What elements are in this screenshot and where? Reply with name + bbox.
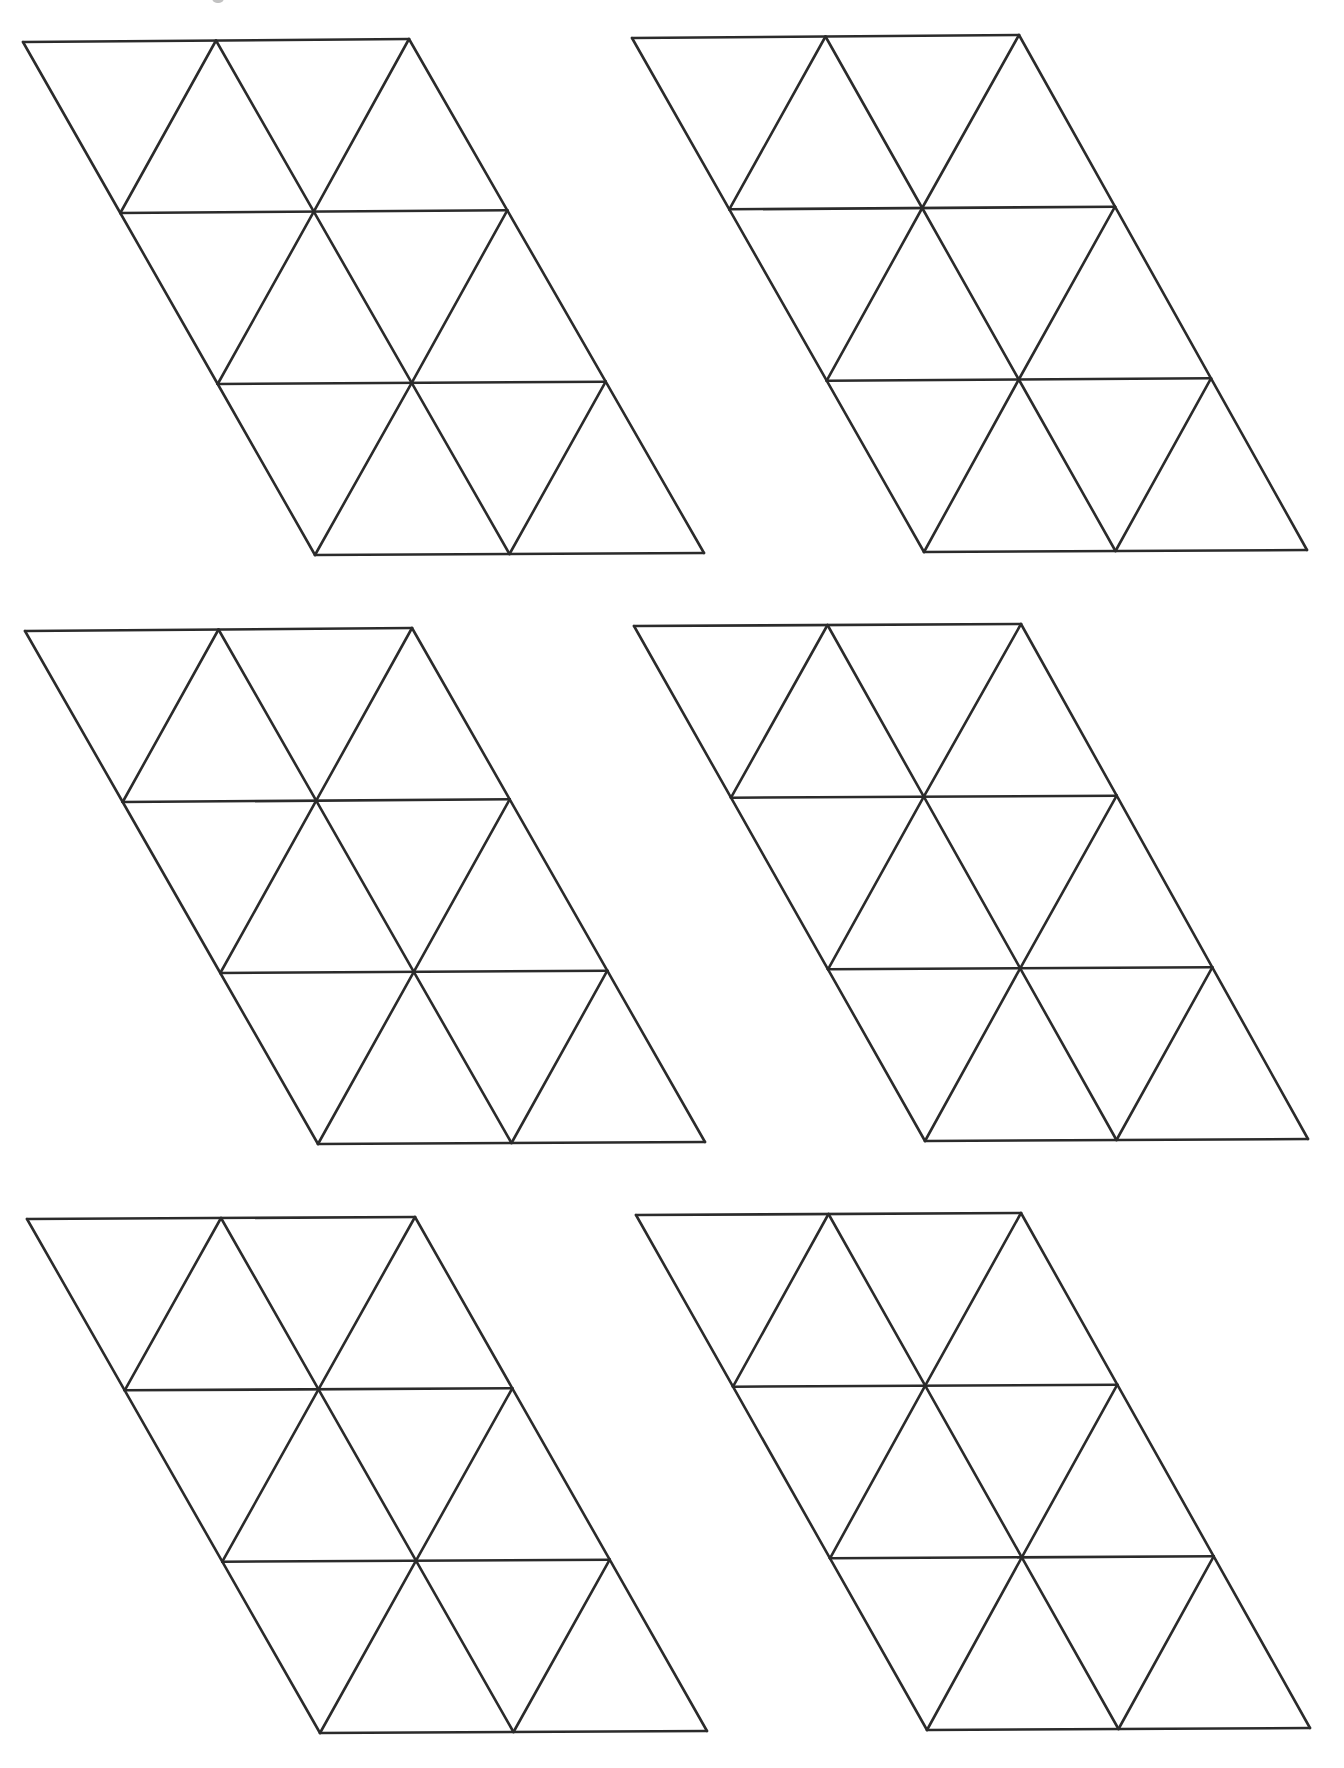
slanted-grid-line [507,210,605,381]
slanted-grid-line [1115,207,1211,379]
slanted-grid-line [409,39,507,210]
slanted-grid-line [120,213,217,384]
diagonal-grid-line [315,383,412,555]
diagonal-grid-line [1119,1556,1214,1729]
slanted-grid-line [1214,1556,1310,1728]
diagonal-grid-line [1019,207,1115,380]
diagonal-grid-line [733,1214,829,1387]
slanted-grid-line [1211,378,1307,550]
slanted-grid-line [826,37,923,209]
panel-middle-right [634,624,1308,1141]
slanted-grid-line [1212,967,1308,1139]
slanted-grid-line [829,1214,926,1386]
slanted-grid-line [314,212,412,383]
slanted-grid-line [319,1389,417,1560]
slanted-grid-line [828,969,925,1141]
slanted-grid-line [830,1558,927,1730]
diagonal-grid-line [927,1557,1022,1730]
slanted-grid-line [316,801,414,972]
slanted-grid-line [412,628,510,799]
slanted-grid-line [510,799,608,970]
diagonal-grid-line [922,35,1019,208]
diagonal-grid-line [220,801,316,973]
panel-middle-left [25,628,705,1144]
diagonal-grid-line [1022,1385,1118,1558]
diagonal-grid-line [125,1218,221,1390]
slanted-grid-line [220,973,318,1144]
slanted-grid-line [925,1386,1022,1558]
slanted-grid-line [415,1217,512,1388]
slanted-grid-line [632,38,729,209]
diagonal-grid-line [925,1213,1021,1386]
panel-bottom-right [636,1213,1310,1730]
diagonal-grid-line [925,968,1020,1141]
panel-top-right [632,35,1307,552]
slanted-grid-line [922,208,1019,380]
diagonal-grid-line [924,380,1019,553]
panel-bottom-left [27,1217,707,1733]
slanted-grid-line [23,42,120,213]
diagonal-grid-line [729,37,825,210]
diagonal-grid-line [830,1386,925,1559]
slanted-grid-line [1019,380,1116,552]
slanted-grid-line [1022,1557,1119,1729]
diagonal-grid-line [222,1389,318,1561]
diagonal-grid-line [316,628,412,801]
slanted-grid-line [607,971,705,1142]
slanted-grid-line [606,382,704,553]
slanted-grid-line [123,802,221,973]
slanted-grid-line [125,1390,223,1561]
diagonal-grid-line [120,41,216,214]
slanted-grid-line [828,625,924,797]
diagonal-grid-line [514,1560,610,1732]
diagonal-grid-line [510,382,606,554]
slanted-grid-line [221,1218,319,1389]
slanted-grid-line [1021,1213,1117,1385]
slanted-grid-line [827,381,924,552]
diagonal-grid-line [924,624,1021,797]
slanted-grid-line [218,384,315,555]
triangle-grid-sheet [0,0,1344,1768]
diagonal-grid-line [416,1388,512,1560]
panel-top-left [23,39,704,555]
slanted-grid-line [733,1387,830,1559]
slanted-grid-line [412,383,510,554]
diagonal-grid-line [218,212,314,384]
slanted-grid-line [27,1219,125,1390]
slanted-grid-line [731,798,828,970]
diagonal-grid-line [827,208,923,381]
slanted-grid-line [634,626,731,798]
diagonal-grid-line [731,625,828,798]
diagonal-grid-line [314,39,409,212]
slanted-grid-line [25,631,123,802]
diagonal-grid-line [123,630,219,803]
slanted-grid-line [216,41,314,212]
diagonal-grid-line [1117,967,1213,1140]
slanted-grid-line [1019,35,1115,207]
diagonal-grid-line [320,1561,416,1733]
slanted-grid-line [1117,796,1213,968]
diagonal-grid-line [414,799,510,972]
slanted-grid-line [219,630,317,801]
slanted-grid-line [1021,624,1117,796]
slanted-grid-line [414,972,512,1143]
slanted-grid-line [636,1215,733,1387]
slanted-grid-line [924,797,1020,969]
slanted-grid-line [416,1561,514,1732]
slanted-grid-line [729,209,826,380]
diagonal-grid-line [1116,378,1212,551]
diagonal-grid-line [319,1217,416,1389]
diagonal-grid-line [512,971,608,1143]
diagonal-grid-line [828,797,924,970]
slanted-grid-line [610,1560,707,1731]
diagonal-grid-line [318,972,414,1144]
diagonal-grid-line [412,210,508,382]
diagonal-grid-line [1020,796,1116,969]
slanted-grid-line [1117,1385,1213,1557]
slanted-grid-line [512,1388,609,1559]
slanted-grid-line [222,1562,320,1733]
slanted-grid-line [1020,968,1116,1140]
